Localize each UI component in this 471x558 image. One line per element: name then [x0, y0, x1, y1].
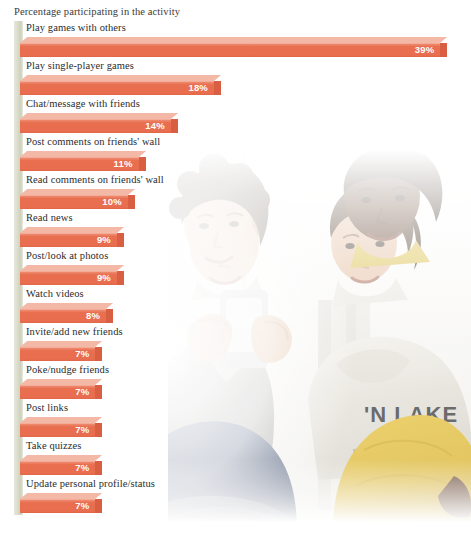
- bar-value-label: 7%: [59, 423, 89, 437]
- bar-side-face: [128, 195, 135, 209]
- bar-row: Play games with others39%: [0, 21, 471, 59]
- bar: 11%: [20, 151, 139, 171]
- bar-category-label: Post comments on friends' wall: [26, 136, 160, 147]
- bar: 9%: [20, 265, 117, 285]
- bar-side-face: [214, 81, 221, 95]
- bar-front-face: [20, 43, 440, 57]
- bar-category-label: Read news: [26, 212, 73, 223]
- bar-value-label: 18%: [178, 81, 208, 95]
- infographic-chart-page: 'N LAKE: [0, 0, 471, 558]
- bar-chart: Play games with others39%Play single-pla…: [0, 21, 471, 515]
- bar-row: Chat/message with friends14%: [0, 97, 471, 135]
- bar: 10%: [20, 189, 128, 209]
- bar-row: Read comments on friends' wall10%: [0, 173, 471, 211]
- bar-side-face: [117, 233, 124, 247]
- bar-row: Post comments on friends' wall11%: [0, 135, 471, 173]
- bar-side-face: [171, 119, 178, 133]
- bar-side-face: [139, 157, 146, 171]
- bar-value-label: 11%: [103, 157, 133, 171]
- bar-value-label: 14%: [135, 119, 165, 133]
- bar-side-face: [106, 309, 113, 323]
- bar-value-label: 9%: [81, 233, 111, 247]
- bar-value-label: 7%: [59, 385, 89, 399]
- bar-category-label: Chat/message with friends: [26, 98, 140, 109]
- bar-side-face: [95, 347, 102, 361]
- bar-side-face: [440, 43, 447, 57]
- bar-value-label: 7%: [59, 499, 89, 513]
- bar-value-label: 8%: [70, 309, 100, 323]
- bar-category-label: Watch videos: [26, 288, 84, 299]
- bar-side-face: [95, 423, 102, 437]
- bar-row: Poke/nudge friends7%: [0, 363, 471, 401]
- bar: 7%: [20, 379, 95, 399]
- bar-row: Take quizzes7%: [0, 439, 471, 477]
- bar-category-label: Poke/nudge friends: [26, 364, 109, 375]
- bar: 7%: [20, 341, 95, 361]
- bar-category-label: Play games with others: [26, 22, 126, 33]
- bar-row: Post links7%: [0, 401, 471, 439]
- bar-value-label: 7%: [59, 347, 89, 361]
- chart-title: Percentage participating in the activity: [14, 6, 180, 17]
- bar: 39%: [20, 37, 440, 57]
- bar: 7%: [20, 493, 95, 513]
- bar: 7%: [20, 455, 95, 475]
- bar-category-label: Play single-player games: [26, 60, 134, 71]
- bar-value-label: 7%: [59, 461, 89, 475]
- bar-row: Update personal profile/status7%: [0, 477, 471, 515]
- bar-value-label: 10%: [92, 195, 122, 209]
- bar-side-face: [95, 461, 102, 475]
- bar: 7%: [20, 417, 95, 437]
- bar-row: Play single-player games18%: [0, 59, 471, 97]
- bar: 14%: [20, 113, 171, 133]
- bar: 18%: [20, 75, 214, 95]
- bar-row: Read news9%: [0, 211, 471, 249]
- bar-category-label: Read comments on friends' wall: [26, 174, 164, 185]
- bar-category-label: Update personal profile/status: [26, 478, 155, 489]
- bar-side-face: [95, 499, 102, 513]
- bar-row: Invite/add new friends7%: [0, 325, 471, 363]
- bar-value-label: 39%: [404, 43, 434, 57]
- bar-category-label: Take quizzes: [26, 440, 82, 451]
- bar: 8%: [20, 303, 106, 323]
- bar-side-face: [95, 385, 102, 399]
- bar: 9%: [20, 227, 117, 247]
- bar-row: Post/look at photos9%: [0, 249, 471, 287]
- bar-category-label: Post/look at photos: [26, 250, 108, 261]
- bar-category-label: Post links: [26, 402, 68, 413]
- bar-category-label: Invite/add new friends: [26, 326, 123, 337]
- bar-side-face: [117, 271, 124, 285]
- bar-value-label: 9%: [81, 271, 111, 285]
- bar-row: Watch videos8%: [0, 287, 471, 325]
